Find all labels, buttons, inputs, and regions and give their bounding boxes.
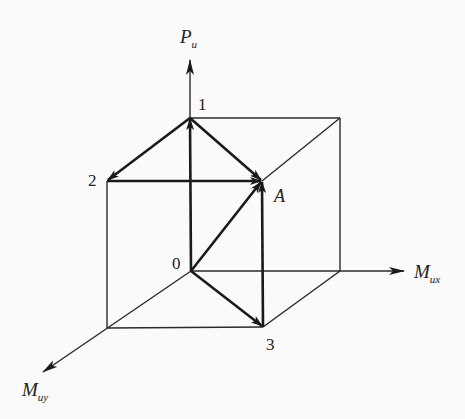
edge-bottom-right-depth (263, 271, 340, 327)
vector-0-to-A (191, 182, 261, 271)
edge-top-right-depth (262, 118, 340, 181)
edge-front-bottom (107, 327, 263, 328)
vector-1-to-A (190, 118, 261, 180)
point-label-3: 3 (266, 336, 275, 353)
mx-axis-label-main: M (414, 261, 430, 282)
axes (43, 60, 404, 372)
my-axis-label: Mиy (22, 380, 48, 403)
my-axis (43, 271, 191, 372)
mx-axis-label-sub: их (430, 273, 440, 285)
vector-0-to-3 (191, 271, 262, 326)
point-label-2: 2 (88, 172, 97, 189)
vectors (107, 118, 263, 327)
my-axis-label-main: M (22, 379, 38, 400)
p-axis-label: Pи (180, 27, 197, 50)
vector-3-to-A (262, 182, 263, 327)
point-label-0: 0 (172, 255, 181, 272)
vector-1-to-2 (108, 118, 190, 180)
p-axis-label-sub: и (192, 38, 198, 50)
p-axis-label-main: P (180, 26, 192, 47)
mx-axis-label: Mих (414, 262, 440, 285)
point-label-A: A (274, 187, 285, 205)
point-label-1: 1 (198, 96, 207, 113)
cube-vector-diagram (0, 0, 465, 419)
my-axis-label-sub: иy (38, 391, 48, 403)
vector-0-to-1 (190, 119, 191, 271)
